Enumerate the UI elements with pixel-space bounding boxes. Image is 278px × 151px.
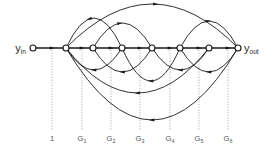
forward-arc-arrowhead-1 — [86, 17, 92, 20]
gain-label-subscript: 4 — [171, 138, 174, 144]
gain-label-g1: G1 — [78, 134, 87, 144]
forward-arc-4 — [180, 21, 238, 48]
signal-arcs-group — [66, 3, 238, 122]
feedback-arc-arrowhead-4 — [206, 71, 212, 74]
output-port-label: yout — [244, 42, 259, 55]
forward-arc-3 — [66, 4, 238, 48]
gain-label-g2: G2 — [107, 134, 116, 144]
node-n1 — [63, 45, 69, 51]
output-port-label-subscript: out — [250, 48, 259, 55]
node-n7 — [235, 45, 241, 51]
signal-flow-graph-figure: 1G1G2G3G4G5G6yinyout — [0, 0, 278, 151]
forward-arrowhead-3 — [109, 47, 115, 50]
feedback-arc-7 — [122, 48, 180, 81]
node-n6 — [206, 45, 212, 51]
forward-arrowhead-6 — [197, 47, 203, 50]
feedback-arc-arrowhead-1 — [91, 69, 97, 72]
gain-label-subscript: 1 — [83, 138, 86, 144]
node-n5 — [177, 45, 183, 51]
signal-flow-graph-canvas: 1G1G2G3G4G5G6yinyout — [0, 0, 278, 151]
node-n4 — [149, 45, 155, 51]
gain-label-subscript: 5 — [200, 138, 203, 144]
feedback-arc-arrowhead-5 — [134, 92, 140, 95]
feedback-arc-6 — [66, 48, 238, 120]
forward-arc-2 — [93, 23, 152, 48]
feedback-arc-5 — [66, 48, 209, 93]
feedback-arc-arrowhead-2 — [119, 71, 125, 74]
gain-label-g6: G6 — [224, 134, 233, 144]
forward-arc-1 — [66, 18, 122, 48]
gain-label-subscript: 6 — [229, 138, 232, 144]
gain-label-g5: G5 — [195, 134, 204, 144]
forward-arc-arrowhead-3 — [153, 3, 159, 6]
feedback-arc-arrowhead-3 — [177, 69, 183, 72]
forward-arrowhead-1 — [50, 47, 56, 50]
feedback-arc-arrowhead-6 — [149, 119, 155, 122]
node-n2 — [90, 45, 96, 51]
gain-label-subscript: 3 — [141, 138, 144, 144]
feedback-arc-arrowhead-7 — [148, 80, 154, 83]
gain-label-1: 1 — [50, 134, 54, 143]
gain-label-g4: G4 — [166, 134, 175, 144]
forward-arrowhead-4 — [138, 47, 144, 50]
gain-label-subscript: 2 — [112, 138, 115, 144]
gain-label-g3: G3 — [136, 134, 145, 144]
forward-arrowhead-5 — [168, 47, 174, 50]
forward-arrowhead-2 — [80, 47, 86, 50]
forward-arc-arrowhead-2 — [117, 22, 123, 25]
input-port-label: yin — [15, 42, 26, 55]
node-n0 — [30, 45, 36, 51]
forward-arrowhead-7 — [226, 47, 232, 50]
input-port-label-subscript: in — [21, 48, 26, 55]
node-n3 — [119, 45, 125, 51]
